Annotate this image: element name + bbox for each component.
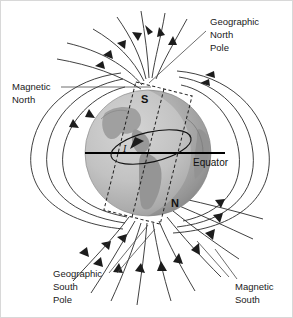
leader-geographic-north — [149, 31, 206, 83]
leader-magnetic-south — [197, 241, 229, 277]
equator-label: Equator — [193, 157, 229, 168]
field-line-south-6 — [177, 205, 253, 239]
arrow-south-4 — [191, 243, 200, 255]
field-direction-arrows-north — [95, 25, 177, 69]
arrow-north-6 — [157, 27, 165, 37]
earth-magnetic-field-diagram: Equator S N I Geographic North Pol — [1, 1, 293, 318]
callout-geographic-north-pole: Geographic North Pole — [210, 16, 259, 53]
arrow-left-lower-2 — [85, 109, 95, 118]
magnet-north-pole-letter: N — [171, 197, 179, 209]
arrow-north-5 — [145, 25, 153, 35]
arrow-south-9 — [93, 257, 103, 267]
field-line-south-9 — [91, 221, 135, 293]
callout-magnetic-north: Magnetic North — [12, 81, 51, 105]
arrow-north-7 — [168, 36, 177, 45]
field-line-south-1 — [137, 223, 147, 305]
field-line-south-2 — [153, 223, 171, 301]
field-line-north-4 — [117, 17, 146, 79]
current-label: I — [122, 143, 127, 154]
field-line-north-6 — [152, 13, 165, 78]
magnetic-north-line2: North — [12, 94, 35, 105]
magnetic-north-line1: Magnetic — [12, 81, 51, 92]
field-line-north-7 — [156, 19, 187, 79]
geographic-north-line3: Pole — [210, 42, 229, 53]
arrow-left-bottom-1 — [117, 234, 127, 243]
field-lines-north-fan — [57, 11, 187, 89]
arrow-south-2 — [157, 261, 167, 271]
field-line-south-5 — [173, 211, 239, 259]
magnetic-south-line1: Magnetic — [235, 281, 274, 292]
geographic-north-line1: Geographic — [210, 16, 259, 27]
geographic-south-line2: South — [53, 281, 78, 292]
geographic-north-line2: North — [210, 29, 233, 40]
callout-magnetic-south: Magnetic South — [235, 281, 274, 305]
field-line-north-2 — [67, 43, 142, 85]
arrow-south-5 — [205, 229, 215, 240]
geographic-south-line3: Pole — [53, 294, 72, 305]
magnetic-south-line2: South — [235, 294, 260, 305]
arrow-south-1 — [135, 263, 145, 273]
geographic-south-line1: Geographic — [53, 268, 102, 279]
arrow-left-lower-1 — [69, 119, 79, 128]
field-line-north-5 — [141, 11, 149, 78]
arrow-north-4 — [132, 32, 142, 41]
arrow-north-1 — [95, 61, 105, 69]
magnetic-field-figure: Equator S N I Geographic North Pol — [0, 0, 293, 318]
arrow-south-10 — [79, 247, 89, 257]
magnet-south-pole-letter: S — [141, 93, 148, 105]
